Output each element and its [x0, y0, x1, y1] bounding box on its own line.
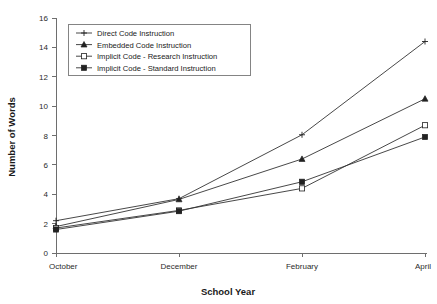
y-tick-label: 14 [39, 43, 48, 52]
x-axis: OctoberDecemberFebruaryApril [49, 253, 431, 271]
y-tick-label: 16 [39, 14, 48, 23]
x-tick-label: December [161, 262, 198, 271]
data-point-marker [176, 209, 181, 214]
legend-sample-marker [81, 54, 86, 59]
x-tick-label: February [286, 262, 318, 271]
y-tick-label: 6 [44, 161, 49, 170]
legend-label: Direct Code Instruction [97, 29, 174, 38]
x-axis-title: School Year [201, 286, 256, 297]
y-tick-label: 4 [44, 190, 49, 199]
y-tick-label: 2 [44, 220, 49, 229]
series-line [56, 99, 425, 227]
data-point-marker [422, 96, 428, 102]
series-line [56, 137, 425, 230]
legend-label: Implicit Code - Standard Instruction [97, 64, 216, 73]
series-4 [53, 134, 427, 232]
legend-entry-3: Implicit Code - Research Instruction [76, 52, 217, 61]
y-tick-label: 12 [39, 73, 48, 82]
line-chart-figure: 0246810121416 OctoberDecemberFebruaryApr… [0, 0, 437, 304]
data-point-marker [422, 134, 427, 139]
data-point-marker [53, 227, 58, 232]
chart-legend: Direct Code InstructionEmbedded Code Ins… [68, 24, 250, 75]
series-2 [53, 96, 428, 229]
legend-label: Embedded Code Instruction [97, 41, 191, 50]
chart-canvas: 0246810121416 OctoberDecemberFebruaryApr… [0, 0, 437, 304]
series-line [56, 125, 425, 228]
data-point-marker [299, 179, 304, 184]
y-tick-label: 10 [39, 102, 48, 111]
legend-entry-4: Implicit Code - Standard Instruction [76, 64, 216, 73]
x-tick-label: April [415, 262, 431, 271]
legend-sample-marker [81, 65, 86, 70]
legend-label: Implicit Code - Research Instruction [97, 52, 217, 61]
y-axis: 0246810121416 [39, 14, 56, 258]
x-tick-label: October [49, 262, 78, 271]
data-point-marker [422, 123, 427, 128]
data-point-marker [299, 156, 305, 162]
y-tick-label: 0 [44, 249, 49, 258]
y-axis-title: Number of Words [6, 97, 17, 177]
data-point-marker [299, 186, 304, 191]
y-tick-label: 8 [44, 132, 49, 141]
